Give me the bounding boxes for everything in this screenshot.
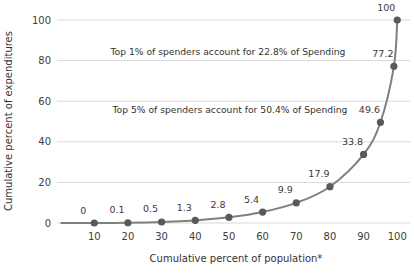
y-tick-labels: 020406080100 [32, 15, 51, 229]
data-label-x99: 77.2 [372, 48, 393, 59]
data-label-x50: 2.8 [210, 199, 225, 210]
data-label-x30: 0.5 [143, 203, 158, 214]
x-tick-100: 100 [388, 231, 407, 242]
data-point-marker-x10 [91, 219, 98, 226]
x-tick-20: 20 [122, 231, 135, 242]
data-point-marker-x80 [326, 183, 333, 190]
y-tick-40: 40 [38, 136, 51, 147]
x-tick-60: 60 [256, 231, 269, 242]
y-axis-title: Cumulative percent of expenditures [3, 31, 14, 211]
data-point-marker-x95 [377, 119, 384, 126]
data-point-marker-x100 [394, 16, 401, 23]
data-label-x70: 9.9 [278, 184, 293, 195]
x-axis-title: Cumulative percent of population* [150, 253, 323, 264]
x-tick-30: 30 [155, 231, 168, 242]
y-tick-100: 100 [32, 15, 51, 26]
x-tick-80: 80 [324, 231, 337, 242]
data-point-marker-x20 [124, 219, 131, 226]
x-tick-70: 70 [290, 231, 303, 242]
x-tick-50: 50 [223, 231, 236, 242]
data-label-x20: 0.1 [109, 204, 124, 215]
data-label-x90: 33.8 [342, 136, 363, 147]
x-tick-90: 90 [357, 231, 370, 242]
data-point-marker-x99 [390, 63, 397, 70]
data-point-marker-x30 [158, 218, 165, 225]
x-tick-40: 40 [189, 231, 202, 242]
y-tick-20: 20 [38, 177, 51, 188]
x-tick-labels: 102030405060708090100 [88, 231, 407, 242]
data-point-marker-x50 [225, 214, 232, 221]
data-label-x40: 1.3 [177, 202, 192, 213]
annotation-2: Top 5% of spenders account for 50.4% of … [111, 104, 347, 115]
x-tick-10: 10 [88, 231, 101, 242]
chart-container: 020406080100 102030405060708090100 00.10… [0, 0, 414, 273]
y-tick-0: 0 [45, 218, 51, 229]
data-label-x100: 100 [377, 2, 395, 13]
annotations: Top 1% of spenders account for 22.8% of … [109, 46, 347, 115]
data-label-x80: 17.9 [308, 168, 329, 179]
data-point-marker-x70 [293, 199, 300, 206]
data-point-marker-x90 [360, 151, 367, 158]
data-label-x95: 49.6 [359, 104, 380, 115]
data-label-x10: 0 [80, 205, 86, 216]
data-label-x60: 5.4 [244, 194, 259, 205]
y-tick-80: 80 [38, 55, 51, 66]
line-chart: 020406080100 102030405060708090100 00.10… [0, 0, 414, 273]
y-tick-60: 60 [38, 96, 51, 107]
data-point-marker-x60 [259, 208, 266, 215]
data-point-marker-x40 [192, 217, 199, 224]
annotation-1: Top 1% of spenders account for 22.8% of … [109, 46, 345, 57]
